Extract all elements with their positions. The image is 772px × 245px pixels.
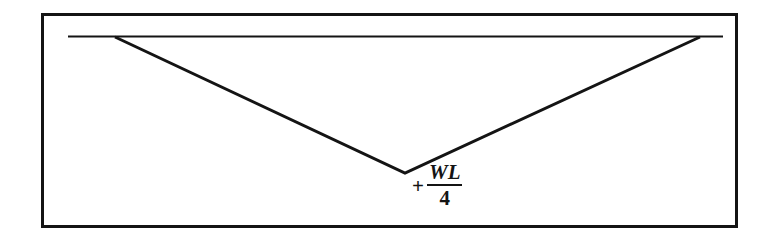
fraction: WL 4 <box>427 162 463 209</box>
plus-sign: + <box>412 175 427 197</box>
bending-moment-figure: + WL 4 <box>0 0 772 245</box>
fraction-denominator: 4 <box>439 186 450 209</box>
moment-value-label: + WL 4 <box>412 162 462 209</box>
fraction-numerator: WL <box>427 162 463 184</box>
diagram-canvas <box>0 0 772 245</box>
